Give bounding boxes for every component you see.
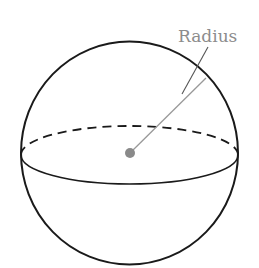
- sphere-diagram: Radius: [0, 0, 259, 268]
- equator-front: [21, 155, 238, 184]
- label-leader-line: [182, 47, 208, 94]
- radius-label: Radius: [178, 26, 237, 46]
- radius-line: [130, 78, 206, 153]
- center-point: [125, 148, 135, 158]
